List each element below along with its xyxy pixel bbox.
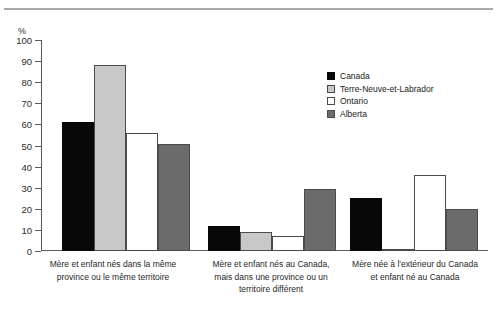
x-axis-group-label-line: Mère et enfant nés dans la même [22, 258, 204, 271]
legend-item: Alberta [327, 108, 434, 121]
legend-item: Canada [327, 70, 434, 83]
x-axis-group-label: Mère et enfant nés au Canada,mais dans u… [196, 258, 346, 296]
bar [158, 144, 190, 251]
y-axis-tick-label: 20 [0, 205, 32, 215]
figure-container: % 0102030405060708090100 Mère et enfant … [0, 0, 497, 316]
legend-item: Terre-Neuve-et-Labrador [327, 83, 434, 96]
y-axis-tick-label: 70 [0, 99, 32, 109]
bar [272, 236, 304, 251]
header-rule [4, 8, 493, 10]
y-axis-tick-label: 80 [0, 78, 32, 88]
y-axis-tick-label: 100 [0, 36, 32, 46]
y-axis-tick-label: 50 [0, 142, 32, 152]
legend-item-label: Alberta [340, 108, 367, 121]
y-axis-tick-label: 60 [0, 120, 32, 130]
y-axis-tick-label: 0 [0, 247, 32, 257]
bar [446, 209, 478, 251]
bar [350, 198, 382, 251]
bar [240, 232, 272, 251]
y-axis-tick-label: 30 [0, 184, 32, 194]
x-axis-group-label-line: province ou le même territoire [22, 271, 204, 284]
chart-legend: CanadaTerre-Neuve-et-LabradorOntarioAlbe… [327, 70, 434, 120]
tnl-swatch [327, 85, 335, 93]
legend-item-label: Terre-Neuve-et-Labrador [340, 83, 434, 96]
y-axis-tick-label: 90 [0, 57, 32, 67]
bar [62, 122, 94, 251]
bar [94, 65, 126, 251]
x-axis-group-label: Mère et enfant nés dans la mêmeprovince … [22, 258, 204, 283]
legend-item-label: Canada [340, 70, 370, 83]
x-axis-group-label-line: territoire différent [196, 283, 346, 296]
y-axis-tick-label: 10 [0, 226, 32, 236]
bar [304, 189, 336, 251]
x-axis-group-label: Mère née à l'extérieur du Canadaet enfan… [336, 258, 494, 283]
legend-item: Ontario [327, 95, 434, 108]
alberta-swatch [327, 110, 335, 118]
bar [382, 249, 414, 251]
x-axis-group-label-line: Mère et enfant nés au Canada, [196, 258, 346, 271]
bar [414, 175, 446, 251]
y-axis-tick-label: 40 [0, 163, 32, 173]
x-axis-group-label-line: mais dans une province ou un [196, 271, 346, 284]
bar [208, 226, 240, 251]
x-axis-group-label-line: et enfant né au Canada [336, 271, 494, 284]
ontario-swatch [327, 97, 335, 105]
y-axis-tick [35, 251, 41, 252]
bar [126, 133, 158, 251]
canada-swatch [327, 72, 335, 80]
legend-item-label: Ontario [340, 95, 368, 108]
x-axis-group-label-line: Mère née à l'extérieur du Canada [336, 258, 494, 271]
